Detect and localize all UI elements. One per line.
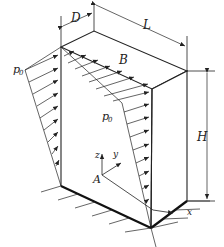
block-diagram: D L B H A p 0 p 0 z y x bbox=[0, 0, 224, 247]
svg-text:0: 0 bbox=[108, 116, 113, 124]
label-p0-front: p 0 bbox=[102, 110, 113, 124]
label-axis-x: x bbox=[187, 207, 192, 217]
label-a: A bbox=[92, 173, 101, 186]
label-axis-y: y bbox=[112, 149, 119, 159]
label-axis-z: z bbox=[94, 150, 100, 160]
label-b: B bbox=[118, 53, 128, 67]
label-h: H bbox=[196, 130, 208, 144]
label-d: D bbox=[70, 11, 81, 25]
left-pressure-distribution bbox=[25, 47, 61, 186]
label-l: L bbox=[142, 18, 151, 32]
svg-text:0: 0 bbox=[19, 69, 24, 77]
label-p0-left: p 0 bbox=[13, 63, 24, 77]
